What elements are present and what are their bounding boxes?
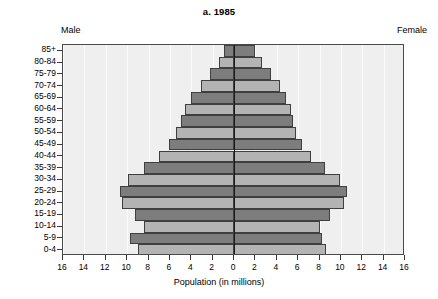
y-axis-tick — [57, 214, 62, 215]
bar-female-60-64 — [234, 104, 291, 116]
bar-row — [63, 127, 403, 139]
chart-title: a. 1985 — [0, 6, 438, 17]
x-axis-tick — [212, 255, 213, 260]
bar-female-45-49 — [234, 139, 302, 151]
x-axis-label: 12 — [95, 262, 115, 272]
y-axis-tick — [57, 155, 62, 156]
x-axis-tick — [276, 255, 277, 260]
y-axis-tick — [57, 73, 62, 74]
bar-female-30-34 — [234, 174, 340, 186]
y-axis-label-85+: 85+ — [4, 45, 56, 54]
x-axis-label: 14 — [373, 262, 393, 272]
y-axis-label-70-74: 70-74 — [4, 81, 56, 90]
y-axis-label-40-44: 40-44 — [4, 151, 56, 160]
y-axis-label-10-14: 10-14 — [4, 221, 56, 230]
bar-male-45-49 — [169, 139, 234, 151]
bar-male-35-39 — [144, 162, 234, 174]
y-axis-tick — [57, 144, 62, 145]
x-axis-tick — [254, 255, 255, 260]
bar-male-65-69 — [191, 92, 234, 104]
bar-male-10-14 — [144, 221, 234, 233]
x-axis-tick — [383, 255, 384, 260]
x-axis-label: 16 — [394, 262, 414, 272]
y-axis-tick — [57, 226, 62, 227]
bar-male-0-4 — [138, 244, 234, 255]
x-axis-tick — [233, 255, 234, 260]
y-axis-tick — [57, 191, 62, 192]
y-axis-label-80-84: 80-84 — [4, 57, 56, 66]
bar-female-40-44 — [234, 151, 311, 163]
x-axis-tick — [126, 255, 127, 260]
female-side-label: Female — [397, 25, 427, 35]
y-axis-label-25-29: 25-29 — [4, 186, 56, 195]
y-axis-tick — [57, 249, 62, 250]
bar-male-60-64 — [185, 104, 234, 116]
y-axis-tick — [57, 50, 62, 51]
y-axis-tick — [57, 97, 62, 98]
x-axis-label: 2 — [244, 262, 264, 272]
bar-row — [63, 139, 403, 151]
x-axis-tick — [361, 255, 362, 260]
bar-row — [63, 174, 403, 186]
x-axis-tick — [340, 255, 341, 260]
bar-row — [63, 233, 403, 245]
bar-male-75-79 — [210, 68, 234, 80]
bar-row — [63, 104, 403, 116]
bar-row — [63, 221, 403, 233]
x-axis-label: 8 — [138, 262, 158, 272]
y-axis-label-0-4: 0-4 — [4, 245, 56, 254]
bar-row — [63, 162, 403, 174]
y-axis-label-75-79: 75-79 — [4, 69, 56, 78]
bar-male-80-84 — [219, 57, 234, 69]
x-axis-label: 8 — [309, 262, 329, 272]
bar-row — [63, 45, 403, 57]
x-axis-label: 0 — [223, 262, 243, 272]
y-axis-tick — [57, 237, 62, 238]
bar-female-0-4 — [234, 244, 326, 255]
y-axis-tick — [57, 179, 62, 180]
y-axis-label-20-24: 20-24 — [4, 198, 56, 207]
y-axis-label-65-69: 65-69 — [4, 92, 56, 101]
bar-female-25-29 — [234, 186, 347, 198]
bar-female-80-84 — [234, 57, 262, 69]
x-axis-label: 12 — [351, 262, 371, 272]
bar-row — [63, 197, 403, 209]
y-axis-tick — [57, 202, 62, 203]
bar-male-25-29 — [120, 186, 234, 198]
x-axis-label: 6 — [159, 262, 179, 272]
bar-male-50-54 — [176, 127, 234, 139]
x-axis-tick — [297, 255, 298, 260]
bar-male-70-74 — [201, 80, 234, 92]
bar-row — [63, 80, 403, 92]
bar-female-55-59 — [234, 115, 293, 127]
x-axis-tick — [169, 255, 170, 260]
x-axis-title: Population (in millions) — [0, 277, 438, 287]
y-axis-label-15-19: 15-19 — [4, 209, 56, 218]
bar-row — [63, 115, 403, 127]
bar-female-15-19 — [234, 209, 330, 221]
population-pyramid-chart: a. 1985 Male Female 85+80-8475-7970-7465… — [0, 0, 438, 299]
x-axis-tick — [319, 255, 320, 260]
center-axis-line — [234, 45, 235, 254]
bar-row — [63, 57, 403, 69]
bar-female-85+ — [234, 45, 255, 57]
x-axis-label: 4 — [180, 262, 200, 272]
bar-row — [63, 92, 403, 104]
bar-female-20-24 — [234, 197, 344, 209]
x-axis-label: 2 — [202, 262, 222, 272]
bar-female-65-69 — [234, 92, 286, 104]
x-axis-label: 10 — [116, 262, 136, 272]
bar-row — [63, 209, 403, 221]
male-side-label: Male — [61, 25, 81, 35]
y-axis-tick — [57, 167, 62, 168]
bar-female-10-14 — [234, 221, 320, 233]
bar-row — [63, 68, 403, 80]
bar-row — [63, 244, 403, 255]
x-axis-tick — [105, 255, 106, 260]
y-axis-tick — [57, 62, 62, 63]
bar-row — [63, 151, 403, 163]
y-axis-label-45-49: 45-49 — [4, 139, 56, 148]
bar-male-20-24 — [122, 197, 234, 209]
y-axis-label-35-39: 35-39 — [4, 163, 56, 172]
y-axis-label-60-64: 60-64 — [4, 104, 56, 113]
